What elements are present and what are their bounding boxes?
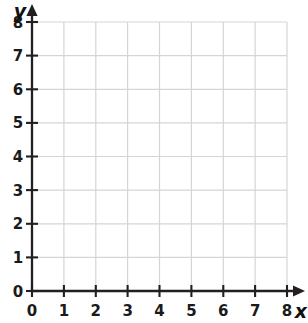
coordinate-plane-svg: 0 1 2 3 4 5 6 7 8 0 1 2 3 4 5 6 7 8 y x: [0, 0, 308, 323]
y-tick-label-4: 4: [13, 148, 23, 166]
y-tick-label-6: 6: [13, 81, 23, 99]
y-tick-label-7: 7: [13, 47, 23, 65]
x-tick-label-7: 7: [250, 302, 260, 320]
x-tick-label-6: 6: [218, 302, 228, 320]
x-tick-label-8: 8: [282, 302, 292, 320]
coordinate-grid-figure: 0 1 2 3 4 5 6 7 8 0 1 2 3 4 5 6 7 8 y x: [0, 0, 308, 323]
x-tick-label-5: 5: [186, 302, 196, 320]
y-tick-label-1: 1: [13, 249, 23, 267]
x-tick-label-4: 4: [154, 302, 164, 320]
x-tick-label-2: 2: [91, 302, 101, 320]
y-tick-label-5: 5: [13, 114, 23, 132]
y-axis-label: y: [14, 0, 28, 22]
y-tick-label-0: 0: [13, 283, 23, 301]
x-tick-label-3: 3: [122, 302, 132, 320]
plot-background: [0, 0, 308, 323]
x-axis-tick-labels: 0 1 2 3 4 5 6 7 8: [27, 302, 292, 320]
x-tick-label-0: 0: [27, 302, 37, 320]
y-tick-label-2: 2: [13, 215, 23, 233]
y-tick-label-3: 3: [13, 182, 23, 200]
x-axis-label: x: [294, 300, 308, 322]
y-axis-tick-labels: 0 1 2 3 4 5 6 7 8: [13, 14, 23, 301]
x-tick-label-1: 1: [59, 302, 69, 320]
